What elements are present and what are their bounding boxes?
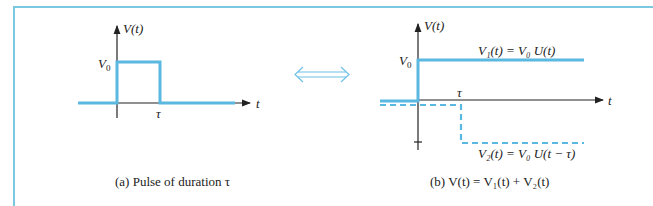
panel-b-decomposition: V(t) t V0 τ V₁(t) = V₀ U(t) V₂(t) = V₀ U… — [380, 18, 612, 189]
x-axis-label: t — [608, 93, 612, 108]
v1-equation-label: V₁(t) = V₀ U(t) — [478, 43, 555, 58]
v0-label: V0 — [399, 53, 412, 70]
y-axis-label: V(t) — [424, 18, 444, 33]
tau-label: τ — [156, 106, 162, 121]
double-headed-arrow-icon — [295, 67, 349, 82]
caption-a: (a) Pulse of duration τ — [115, 174, 230, 189]
v0-label: V0 — [98, 56, 111, 73]
panel-a-pulse: V(t) t V0 τ (a) Pulse of duration τ — [78, 21, 260, 189]
v2-equation-label: V₂(t) = V₀ U(t − τ) — [478, 146, 575, 161]
y-axis-label: V(t) — [123, 21, 143, 36]
tau-label: τ — [457, 85, 463, 100]
caption-b: (b) V(t) = V₁(t) + V₂(t) — [430, 174, 549, 189]
x-axis-label: t — [256, 96, 260, 111]
v2-step-waveform — [380, 105, 584, 143]
